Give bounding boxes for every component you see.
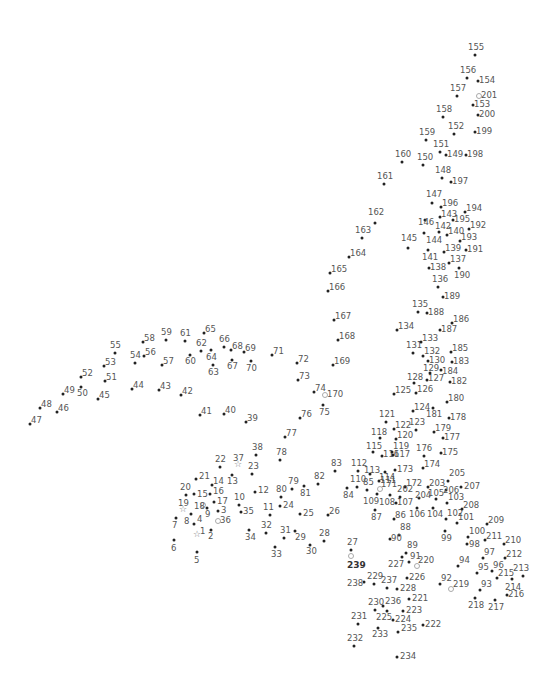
dot-point[interactable]: [385, 421, 388, 424]
dot-point[interactable]: [474, 54, 477, 57]
dot-point[interactable]: [196, 551, 199, 554]
dot-point[interactable]: [190, 513, 193, 516]
dot-point[interactable]: [460, 486, 463, 489]
dot-point[interactable]: [265, 532, 268, 535]
dot-number-label: 109: [363, 497, 379, 506]
dot-point[interactable]: [422, 164, 425, 167]
dot-number-label: 196: [442, 199, 458, 208]
dot-point[interactable]: [373, 583, 376, 586]
dot-number-label: 238: [347, 579, 363, 588]
dot-point[interactable]: [374, 609, 377, 612]
dot-point[interactable]: [255, 454, 258, 457]
dot-number-label: 20: [180, 483, 191, 492]
dot-point[interactable]: [396, 656, 399, 659]
dot-point[interactable]: [291, 488, 294, 491]
dot-number-label: 88: [400, 523, 411, 532]
dot-point[interactable]: [114, 352, 117, 355]
dot-point[interactable]: [357, 470, 360, 473]
dot-number-label: 129: [423, 364, 439, 373]
dot-number-label: 192: [470, 221, 486, 230]
dot-point[interactable]: [397, 631, 400, 634]
dot-point[interactable]: [401, 161, 404, 164]
dot-point[interactable]: [405, 552, 408, 555]
dot-number-label: 176: [416, 444, 432, 453]
dot-point[interactable]: [283, 537, 286, 540]
dot-point[interactable]: [453, 133, 456, 136]
dot-point[interactable]: [417, 311, 420, 314]
dot-point[interactable]: [356, 486, 359, 489]
dot-number-label: 126: [417, 385, 433, 394]
dot-point[interactable]: [323, 540, 326, 543]
dot-number-label: 177: [444, 433, 460, 442]
dot-number-label: 27: [347, 538, 358, 547]
dot-point[interactable]: [396, 588, 399, 591]
dot-number-label: 186: [453, 315, 469, 324]
dot-point[interactable]: [279, 505, 282, 508]
dot-point[interactable]: [251, 473, 254, 476]
dot-point[interactable]: [279, 459, 282, 462]
dot-point[interactable]: [361, 237, 364, 240]
dot-point[interactable]: [280, 496, 283, 499]
dot-point[interactable]: [415, 429, 418, 432]
dot-point[interactable]: [269, 514, 272, 517]
dot-number-label: 59: [161, 328, 172, 337]
dot-point[interactable]: [383, 183, 386, 186]
dot-point[interactable]: [213, 501, 216, 504]
dot-number-label: 135: [412, 300, 428, 309]
dot-number-label: 198: [467, 150, 483, 159]
dot-number-label: 28: [319, 529, 330, 538]
dot-point[interactable]: [185, 494, 188, 497]
dot-point[interactable]: [423, 455, 426, 458]
dot-number-label: 171: [381, 480, 397, 489]
dot-point[interactable]: [317, 483, 320, 486]
dot-point[interactable]: [193, 523, 196, 526]
dot-point[interactable]: [348, 553, 354, 559]
dot-number-label: 44: [133, 381, 144, 390]
dot-point[interactable]: [408, 598, 411, 601]
dot-number-label: 55: [110, 341, 121, 350]
dot-point[interactable]: [217, 510, 220, 513]
dot-point[interactable]: [439, 151, 442, 154]
dot-point[interactable]: [134, 362, 137, 365]
dot-point[interactable]: [334, 470, 337, 473]
dot-point[interactable]: [437, 286, 440, 289]
dot-point[interactable]: [353, 645, 356, 648]
dot-point[interactable]: [412, 352, 415, 355]
dot-point[interactable]: [399, 496, 402, 499]
dot-number-label: 60: [185, 357, 196, 366]
dot-number-label: 92: [441, 574, 452, 583]
dot-point[interactable]: [184, 340, 187, 343]
dot-point[interactable]: [209, 493, 212, 496]
dot-point[interactable]: [407, 247, 410, 250]
dot-point[interactable]: [522, 575, 525, 578]
dot-point[interactable]: [386, 587, 389, 590]
dot-point[interactable]: [456, 95, 459, 98]
dot-point[interactable]: [357, 623, 360, 626]
dot-point[interactable]: [374, 222, 377, 225]
dot-point[interactable]: [466, 77, 469, 80]
dot-point[interactable]: [350, 549, 353, 552]
dot-point[interactable]: [195, 478, 198, 481]
dot-number-label: 162: [368, 208, 384, 217]
dot-point[interactable]: [238, 504, 241, 507]
dot-point[interactable]: [173, 539, 176, 542]
dot-point[interactable]: [431, 202, 434, 205]
dot-number-label: 216: [508, 590, 524, 599]
dot-number-label: 52: [82, 369, 93, 378]
dot-point[interactable]: [441, 177, 444, 180]
dot-point[interactable]: [299, 513, 302, 516]
dot-point[interactable]: [366, 489, 369, 492]
dot-point[interactable]: [447, 480, 450, 483]
dot-point[interactable]: [200, 350, 203, 353]
dot-point[interactable]: [223, 346, 226, 349]
dot-point[interactable]: [165, 339, 168, 342]
dot-number-label: 168: [339, 332, 355, 341]
dot-number-label: 21: [199, 472, 210, 481]
dot-point[interactable]: [442, 116, 445, 119]
dot-number-label: 6: [171, 544, 176, 553]
dot-point[interactable]: [254, 491, 257, 494]
dot-point[interactable]: [219, 466, 222, 469]
dot-point[interactable]: [193, 493, 196, 496]
dot-point[interactable]: [425, 139, 428, 142]
dot-point[interactable]: [402, 610, 405, 613]
